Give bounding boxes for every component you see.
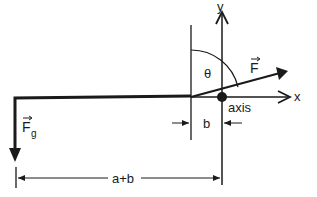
pivot-label: axis (228, 100, 252, 115)
pivot-dot (217, 92, 227, 102)
angle-arc (191, 50, 238, 87)
force-label: F (250, 57, 260, 76)
gravity-force-symbol: F (22, 119, 31, 135)
y-axis-label: y (217, 0, 224, 14)
torque-diagram: F g y x θ F axis b a+b (0, 0, 317, 197)
dimension-a-plus-b-label: a+b (112, 171, 134, 186)
angle-label: θ (204, 66, 211, 81)
beam (15, 96, 191, 150)
gravity-force-arrow (9, 148, 21, 162)
x-axis-label: x (294, 89, 301, 104)
gravity-force-label: F g (22, 116, 37, 139)
force-symbol: F (250, 60, 259, 76)
gravity-force-subscript: g (31, 128, 37, 139)
dimension-b-label: b (203, 116, 210, 131)
